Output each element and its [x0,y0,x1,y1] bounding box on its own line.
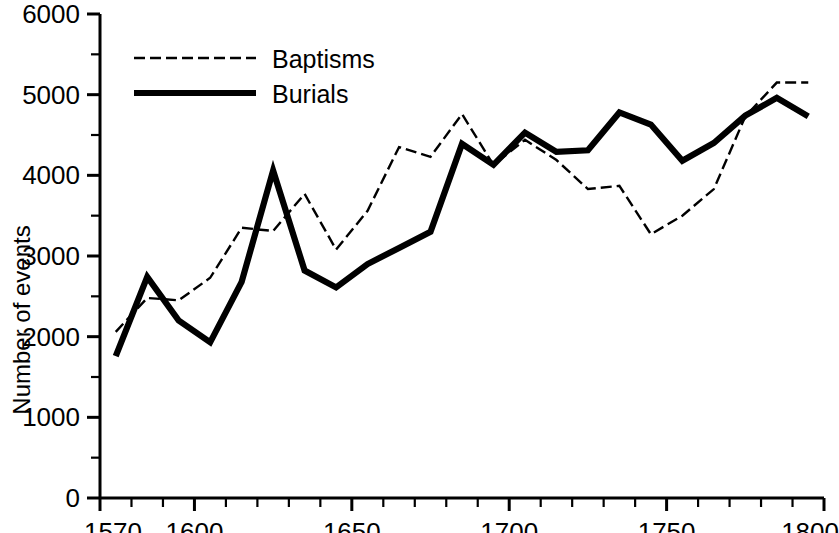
legend-label-burials: Burials [272,80,348,108]
y-axis-tick-label: 0 [66,483,80,513]
x-axis-tick-label: 1650 [323,517,381,533]
x-axis-tick-label: 1700 [480,517,538,533]
axis-title-group: Number of events [8,225,35,414]
series-line-baptisms [116,83,809,332]
x-axis-tick-label: 1600 [166,517,224,533]
x-axis-tick-label: 1570 [84,517,142,533]
y-axis-title: Number of events [8,225,35,414]
series-line-burials [116,98,809,356]
y-axis-tick-label: 5000 [22,80,80,110]
chart-figure: 0100020003000400050006000157016001650170… [0,0,839,533]
y-axis-tick-label: 4000 [22,160,80,190]
axes-group [87,14,824,511]
x-axis-tick-label: 1750 [638,517,696,533]
legend: BaptismsBurials [134,45,375,108]
data-series-group [116,83,809,356]
y-axis-tick-label: 6000 [22,0,80,29]
x-axis-tick-label: 1800 [781,517,839,533]
line-chart-canvas: 0100020003000400050006000157016001650170… [0,0,839,533]
legend-label-baptisms: Baptisms [272,45,375,73]
tick-labels-group: 0100020003000400050006000157016001650170… [22,0,839,533]
